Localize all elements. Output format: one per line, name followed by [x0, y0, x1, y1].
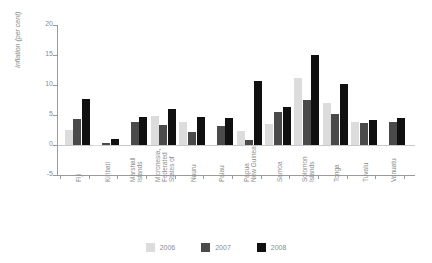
bar [360, 123, 368, 145]
x-category-label: Islands [308, 161, 316, 182]
bar [65, 130, 73, 145]
x-tick-mark [347, 175, 348, 179]
x-tick-mark [232, 175, 233, 179]
x-category-label: Kiribati [104, 162, 112, 182]
x-category-label: Islands [136, 161, 144, 182]
bar [245, 140, 253, 145]
x-tick-mark [89, 175, 90, 179]
bar [351, 122, 359, 145]
bar-group-item [122, 25, 147, 175]
bar [93, 145, 101, 146]
bar [131, 122, 139, 145]
bar [82, 99, 90, 145]
x-category-label: Tonga [333, 164, 341, 182]
bar [323, 103, 331, 145]
bar [151, 116, 159, 145]
x-tick-mark [404, 175, 405, 179]
bar [331, 114, 339, 145]
x-category-label: Micronesia, [154, 149, 162, 182]
legend-swatch-icon [257, 243, 266, 252]
x-tick-mark [289, 175, 290, 179]
bar [111, 139, 119, 145]
bar [237, 131, 245, 145]
legend-swatch-icon [201, 243, 210, 252]
legend-label: 2007 [215, 243, 231, 252]
legend-label: 2006 [160, 243, 176, 252]
x-category-label: Palau [218, 165, 226, 182]
x-category-label: Solomon [301, 156, 309, 182]
bar [389, 122, 397, 145]
bar-group-item [65, 25, 90, 175]
legend-label: 2008 [271, 243, 287, 252]
bar-group-item [93, 25, 118, 175]
x-tick-mark [318, 175, 319, 179]
bar [294, 78, 302, 145]
bar-group-item [323, 25, 348, 175]
y-tick-mark [53, 115, 58, 116]
y-tick-label: 5 [49, 110, 53, 117]
bar [188, 132, 196, 145]
y-tick-label: 15 [45, 50, 53, 57]
bar [303, 100, 311, 145]
x-tick-mark [60, 175, 61, 179]
bar [254, 81, 262, 145]
x-category-label: Fiji [75, 174, 83, 182]
bar [139, 117, 147, 145]
bar [102, 143, 110, 145]
bar [283, 107, 291, 145]
bar [73, 119, 81, 145]
bar [159, 125, 167, 145]
legend-item[interactable]: 2007 [201, 243, 231, 252]
bar-group-item [208, 25, 233, 175]
bar [217, 126, 225, 145]
x-tick-mark [375, 175, 376, 179]
y-tick-label: -5 [47, 170, 53, 177]
bar [397, 118, 405, 145]
plot-area: 20151050-5 [57, 25, 415, 175]
y-axis-title: Inflation (per cent) [14, 12, 21, 68]
bar [179, 122, 187, 145]
y-tick-label: 10 [45, 80, 53, 87]
bar [274, 112, 282, 145]
y-tick-mark [53, 85, 58, 86]
bar [311, 55, 319, 145]
legend-item[interactable]: 2008 [257, 243, 287, 252]
y-axis-line [57, 25, 58, 175]
x-tick-mark [146, 175, 147, 179]
x-category-label: Marshall [129, 157, 137, 182]
y-tick-mark [53, 55, 58, 56]
y-tick-mark [53, 25, 58, 26]
x-category-label: Samoa [276, 161, 284, 182]
bar-group-item [351, 25, 376, 175]
bar-group-item [179, 25, 204, 175]
chart-legend: 200620072008 [0, 243, 432, 252]
inflation-bar-chart: Inflation (per cent) 20151050-5 FijiKiri… [0, 0, 432, 263]
bar [265, 124, 273, 145]
top-caption [62, 0, 392, 4]
y-tick-label: 20 [45, 20, 53, 27]
legend-swatch-icon [146, 243, 155, 252]
x-category-label: States of [168, 156, 176, 182]
bar-group-item [265, 25, 290, 175]
x-tick-mark [117, 175, 118, 179]
bar [197, 117, 205, 145]
x-tick-mark [203, 175, 204, 179]
bar-group-item [380, 25, 405, 175]
bar [225, 118, 233, 145]
x-category-label: Nauru [190, 164, 198, 182]
y-tick-label: 0 [49, 140, 53, 147]
x-category-label: New Guinea [250, 146, 258, 182]
bar [340, 84, 348, 145]
bar [168, 109, 176, 145]
x-category-label: Vanuatu [390, 158, 398, 182]
y-tick-mark [53, 145, 58, 146]
y-tick-mark [53, 175, 58, 176]
bar-group-item [294, 25, 319, 175]
legend-item[interactable]: 2006 [146, 243, 176, 252]
x-tick-mark [261, 175, 262, 179]
bar [369, 120, 377, 145]
x-category-label: Tuvalu [362, 163, 370, 182]
